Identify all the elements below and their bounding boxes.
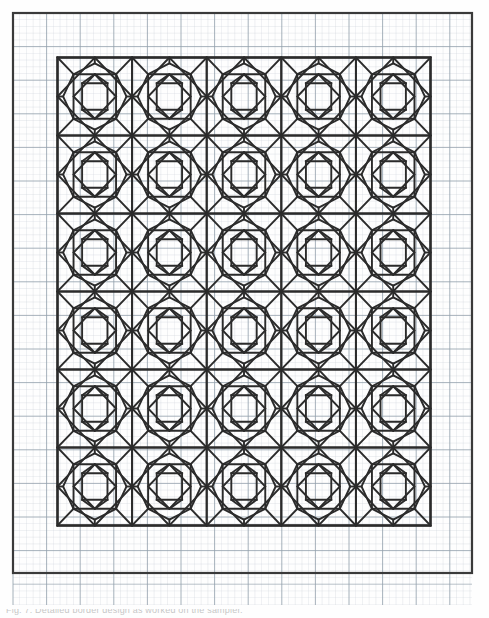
chart-canvas <box>0 0 489 618</box>
figure-caption-strip: Fig. 7. Detailed border design as worked… <box>0 609 489 618</box>
pattern-chart-page: Fig. 7. Detailed border design as worked… <box>0 0 489 618</box>
figure-caption: Fig. 7. Detailed border design as worked… <box>6 609 243 615</box>
pattern-chart-svg <box>0 0 489 618</box>
